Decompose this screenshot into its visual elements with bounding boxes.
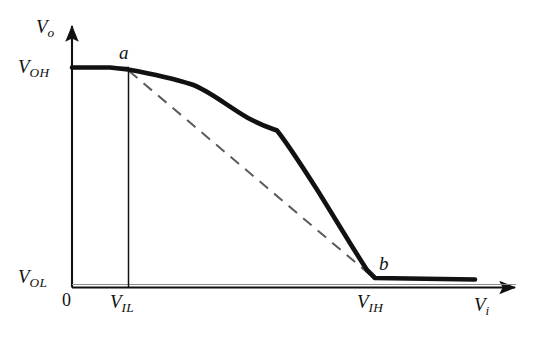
y-tick-label-vol: VOL	[18, 267, 47, 286]
average-slope-dashed-line	[129, 71, 374, 278]
voltage-transfer-characteristic-figure: Vo VOH VOL 0 VIL VIH Vi a b	[0, 0, 549, 342]
x-tick-label-vil: VIL	[110, 292, 134, 311]
point-label-b: b	[379, 254, 389, 273]
y-tick-label-voh: VOH	[18, 57, 49, 76]
point-label-a: a	[119, 43, 129, 62]
origin-label: 0	[62, 291, 71, 309]
plot-canvas	[0, 0, 549, 342]
y-axis-title: Vo	[36, 17, 54, 36]
x-tick-label-vih: VIH	[357, 292, 383, 311]
transfer-characteristic-curve	[72, 68, 475, 280]
x-axis-title: Vi	[474, 295, 490, 314]
